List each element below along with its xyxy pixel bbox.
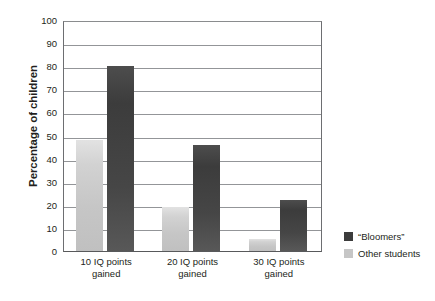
bar-other-students (76, 140, 103, 251)
legend-label: Other students (358, 248, 420, 259)
x-axis-tick-label: 10 IQ pointsgained (58, 256, 154, 280)
bars-layer (64, 22, 321, 251)
plot-area (63, 21, 322, 252)
legend-label: “Bloomers” (358, 231, 404, 242)
bar-other-students (162, 207, 189, 251)
bar-other-students (249, 239, 276, 251)
bar-group (249, 22, 323, 251)
y-axis-tick-label: 30 (46, 178, 57, 188)
x-axis-tick-label-line: gained (231, 268, 327, 280)
y-axis-tick-label: 10 (46, 224, 57, 234)
legend-swatch-icon (344, 232, 353, 241)
bar-bloomers (193, 145, 220, 251)
y-axis-tick-label: 90 (46, 39, 57, 49)
legend-swatch-icon (344, 249, 353, 258)
x-axis-tick-label-line: 20 IQ points (145, 256, 241, 268)
y-axis-tick-label: 100 (41, 16, 57, 26)
x-axis-tick-label-line: gained (145, 268, 241, 280)
y-axis-tick-label: 40 (46, 155, 57, 165)
legend-item: “Bloomers” (344, 229, 434, 244)
x-axis-tick-label-line: gained (58, 268, 154, 280)
bar-group (162, 22, 236, 251)
x-axis-tick-label: 30 IQ pointsgained (231, 256, 327, 280)
bar-group (76, 22, 150, 251)
x-axis-tick-labels: 10 IQ pointsgained20 IQ pointsgained30 I… (63, 256, 322, 296)
x-axis-tick-label: 20 IQ pointsgained (145, 256, 241, 280)
y-axis-tick-labels: 1009080706050403020100 (33, 21, 57, 252)
legend: “Bloomers”Other students (344, 229, 434, 263)
legend-item: Other students (344, 246, 434, 261)
y-axis-tick-label: 60 (46, 108, 57, 118)
y-axis-tick-label: 20 (46, 201, 57, 211)
bar-bloomers (107, 66, 134, 251)
y-axis-tick-label: 70 (46, 85, 57, 95)
bar-chart: Percentage of children 10090807060504030… (0, 0, 435, 301)
y-axis-tick-label: 50 (46, 132, 57, 142)
x-axis-tick-label-line: 10 IQ points (58, 256, 154, 268)
y-axis-tick-label: 0 (52, 247, 57, 257)
x-axis-tick-label-line: 30 IQ points (231, 256, 327, 268)
y-axis-tick-label: 80 (46, 62, 57, 72)
bar-bloomers (280, 200, 307, 251)
